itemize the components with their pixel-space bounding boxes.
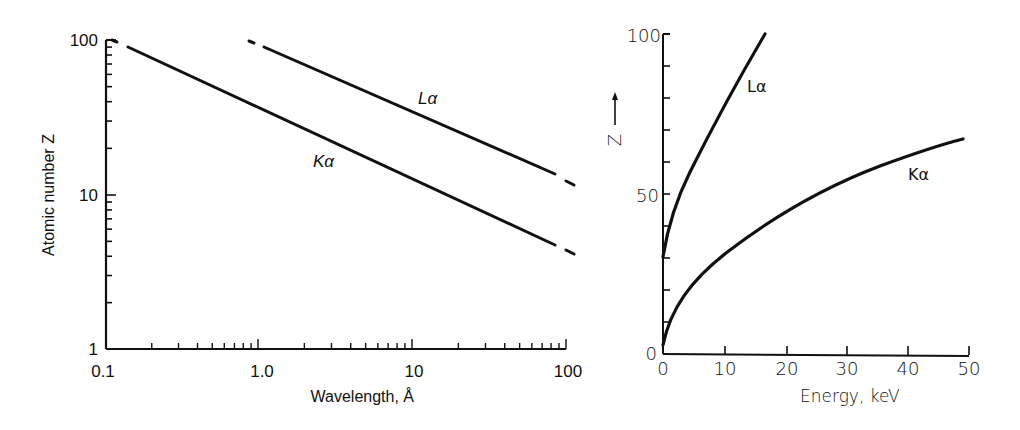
left-label-ka: Kα	[313, 152, 335, 171]
right-la-curve	[663, 34, 765, 257]
left-chart: 100 10 1 0.1 1.0 10 100 Wavelength, Å At…	[40, 31, 582, 405]
right-x-axis	[663, 354, 969, 356]
right-xtick-30: 30	[836, 358, 859, 379]
right-xtick-20: 20	[776, 358, 799, 379]
right-chart: 100 50 0 0 10 20 30 40 50 Energy, keV Z …	[604, 25, 980, 406]
left-ytick-100: 100	[70, 31, 98, 50]
figure: 100 10 1 0.1 1.0 10 100 Wavelength, Å At…	[0, 0, 1020, 430]
right-x-axis-title: Energy, keV	[800, 386, 900, 406]
left-xtick-100: 100	[554, 362, 582, 381]
left-ka-dash-end	[566, 250, 574, 254]
right-xtick-50: 50	[958, 358, 981, 379]
left-la-dash-start	[249, 41, 254, 43]
left-ytick-1: 1	[89, 340, 98, 359]
left-la-line	[264, 47, 555, 174]
right-ytick-0: 0	[646, 343, 657, 364]
right-label-la: Lα	[747, 77, 766, 96]
left-y-axis-title: Atomic number Z	[40, 134, 57, 256]
left-y-ticks	[106, 40, 116, 303]
left-ka-dash-start	[112, 40, 117, 42]
right-y-ticks	[663, 34, 670, 322]
left-x-ticks	[152, 339, 566, 349]
left-xtick-10: 10	[405, 362, 424, 381]
right-xtick-0: 0	[657, 358, 668, 379]
left-la-dash-end	[566, 181, 574, 185]
left-ytick-10: 10	[79, 186, 98, 205]
right-ytick-50: 50	[636, 185, 659, 206]
up-arrow-icon	[612, 92, 618, 125]
right-xtick-40: 40	[897, 358, 920, 379]
right-y-axis-title: Z	[604, 134, 625, 146]
left-x-axis-title: Wavelength, Å	[311, 387, 415, 405]
right-xtick-10: 10	[714, 358, 737, 379]
right-label-ka: Kα	[908, 165, 929, 184]
right-ytick-100: 100	[627, 25, 661, 46]
left-label-la: Lα	[418, 89, 438, 108]
left-xtick-1.0: 1.0	[250, 362, 274, 381]
left-xtick-0.1: 0.1	[91, 362, 115, 381]
